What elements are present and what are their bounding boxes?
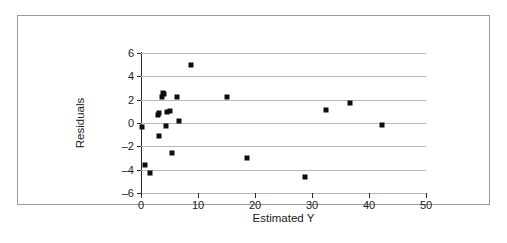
x-tick-mark bbox=[141, 193, 142, 198]
data-point bbox=[245, 156, 250, 161]
figure-card: –6–4–20246 01020304050 Estimated Y Resid… bbox=[17, 15, 490, 205]
data-point bbox=[174, 94, 179, 99]
x-tick-label: 30 bbox=[306, 200, 318, 211]
x-tick-mark bbox=[198, 193, 199, 198]
data-point bbox=[188, 62, 193, 67]
y-tick-label: –4 bbox=[122, 164, 134, 175]
data-point bbox=[156, 111, 161, 116]
y-tick-mark bbox=[137, 100, 141, 101]
data-point bbox=[176, 118, 181, 123]
data-point bbox=[157, 133, 162, 138]
x-tick-label: 0 bbox=[138, 200, 144, 211]
data-point bbox=[347, 100, 352, 105]
x-tick-mark bbox=[426, 193, 427, 198]
gridline bbox=[141, 100, 426, 101]
y-tick-mark bbox=[137, 76, 141, 77]
scatter-plot-area: –6–4–20246 01020304050 bbox=[141, 53, 426, 193]
x-axis-title: Estimated Y bbox=[141, 212, 426, 224]
x-tick-label: 40 bbox=[363, 200, 375, 211]
x-tick-mark bbox=[255, 193, 256, 198]
data-point bbox=[162, 92, 167, 97]
gridline bbox=[141, 76, 426, 77]
data-point bbox=[142, 163, 147, 168]
data-point bbox=[224, 95, 229, 100]
data-point bbox=[379, 122, 384, 127]
gridline bbox=[141, 193, 426, 194]
x-tick-label: 10 bbox=[192, 200, 204, 211]
gridline bbox=[141, 53, 426, 54]
gridline bbox=[141, 170, 426, 171]
y-tick-label: 6 bbox=[128, 48, 134, 59]
data-point bbox=[147, 171, 152, 176]
y-tick-mark bbox=[137, 53, 141, 54]
x-tick-label: 20 bbox=[249, 200, 261, 211]
y-tick-label: 0 bbox=[128, 118, 134, 129]
y-tick-label: –6 bbox=[122, 188, 134, 199]
y-tick-label: 2 bbox=[128, 94, 134, 105]
data-point bbox=[323, 108, 328, 113]
x-tick-mark bbox=[312, 193, 313, 198]
data-point bbox=[170, 151, 175, 156]
data-point bbox=[163, 123, 168, 128]
x-tick-label: 50 bbox=[420, 200, 432, 211]
data-point bbox=[140, 125, 145, 130]
data-point bbox=[303, 174, 308, 179]
y-tick-mark bbox=[137, 170, 141, 171]
y-tick-label: 4 bbox=[128, 71, 134, 82]
data-point bbox=[168, 109, 173, 114]
y-axis-title: Residuals bbox=[74, 98, 86, 149]
y-tick-label: –2 bbox=[122, 141, 134, 152]
x-tick-mark bbox=[369, 193, 370, 198]
y-tick-mark bbox=[137, 146, 141, 147]
gridline bbox=[141, 146, 426, 147]
